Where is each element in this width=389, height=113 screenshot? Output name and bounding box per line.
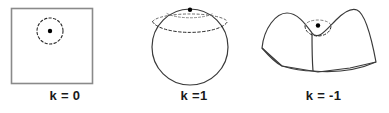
sphere-pole-dot [188, 8, 192, 12]
saddle-center-dot [316, 23, 320, 27]
panel-label-sphere: k =1 [130, 88, 258, 104]
panel-sphere-geometry: k =1 [130, 0, 258, 113]
curvature-figure: k = 0 k =1 [0, 0, 389, 113]
flat-center-dot [48, 29, 52, 33]
sphere-outline [152, 9, 228, 85]
panel-label-flat: k = 0 [0, 88, 130, 104]
panel-flat-geometry: k = 0 [0, 0, 130, 113]
saddle-surface-diagram [258, 0, 389, 88]
panel-label-saddle: k = -1 [258, 88, 389, 104]
flat-plane-square [12, 9, 93, 84]
panel-saddle-geometry: k = -1 [258, 0, 389, 113]
saddle-surface-body [262, 9, 376, 72]
sphere-diagram [130, 0, 258, 88]
flat-plane-diagram [0, 0, 130, 88]
